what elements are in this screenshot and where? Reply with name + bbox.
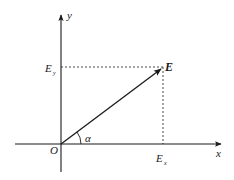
x-axis-label: x [215,147,221,159]
vector-diagram: y x O α E E y E x [0,0,234,180]
origin-label: O [50,144,58,156]
y-axis-label: y [66,9,72,21]
angle-arc [77,132,81,144]
svg-text:E: E [44,62,52,74]
svg-text:y: y [52,70,56,76]
ex-label: E x [155,152,167,166]
svg-text:x: x [163,160,167,166]
svg-text:E: E [155,152,163,164]
vector-e-arrow [61,69,161,144]
angle-label: α [85,132,91,144]
ey-label: E y [44,62,56,76]
vector-e-label: E [164,60,173,74]
